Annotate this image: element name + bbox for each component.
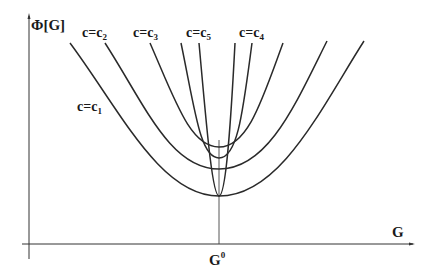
svg-text:c=c3: c=c3 xyxy=(133,25,158,42)
x-axis-label: G xyxy=(392,224,404,240)
curve-c1 xyxy=(70,41,364,196)
svg-text:c=c4: c=c4 xyxy=(239,25,264,42)
svg-text:c=c2: c=c2 xyxy=(82,25,107,42)
g0-label: G0 xyxy=(209,250,226,268)
curve-label-c5: c=c5 xyxy=(186,25,211,42)
y-axis-label: Φ[G] xyxy=(31,17,65,33)
curve-label-c3: c=c3 xyxy=(133,25,158,42)
x-axis-arrow-icon xyxy=(409,243,415,246)
svg-text:G0: G0 xyxy=(209,250,226,268)
curve-label-c4: c=c4 xyxy=(239,25,264,42)
phi-of-g-diagram: Φ[G] c=c2 c=c3 c=c5 c=c4 c=c1 G G0 xyxy=(0,0,434,278)
curve-label-c2: c=c2 xyxy=(82,25,107,42)
svg-text:c=c1: c=c1 xyxy=(77,99,102,116)
svg-text:c=c5: c=c5 xyxy=(186,25,211,42)
curve-c5 xyxy=(199,43,235,196)
curve-c3 xyxy=(150,43,283,147)
curve-label-c1: c=c1 xyxy=(77,99,102,116)
curve-c4 xyxy=(181,43,252,158)
